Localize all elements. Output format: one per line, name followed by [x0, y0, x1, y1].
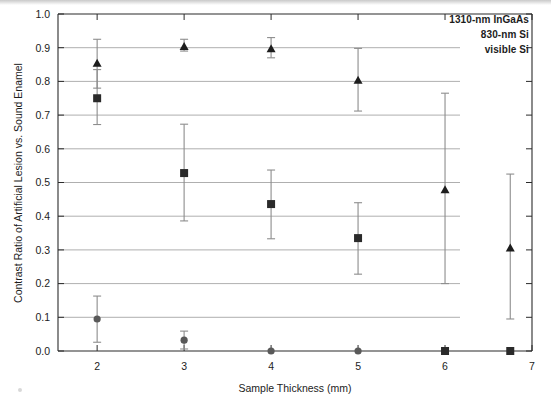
y-tick-label: 0.9 — [35, 42, 50, 54]
data-point-marker-circle — [267, 347, 274, 354]
y-tick-label: 0.0 — [35, 345, 50, 357]
data-point-marker-triangle — [267, 44, 276, 52]
y-tick-label: 0.6 — [35, 143, 50, 155]
x-tick-label: 3 — [181, 360, 187, 372]
x-tick-label: 5 — [355, 360, 361, 372]
data-point-marker-square — [267, 200, 275, 208]
scatter-plot-svg: 0.00.10.20.30.40.50.60.70.80.91.0 234567… — [0, 0, 551, 408]
data-point-marker-square — [506, 347, 514, 355]
error-bars-group — [93, 38, 514, 349]
legend-entry-830nm-si: 830-nm Si — [409, 27, 529, 42]
y-tick-label: 0.4 — [35, 210, 50, 222]
x-tick-label: 2 — [94, 360, 100, 372]
y-tick-label: 0.8 — [35, 75, 50, 87]
data-point-marker-circle — [181, 337, 188, 344]
y-tick-label: 0.3 — [35, 244, 50, 256]
data-point-marker-square — [93, 94, 101, 102]
legend-entry-1310nm-ingaas: 1310-nm InGaAs — [409, 12, 529, 27]
scan-artifact-speck — [18, 388, 22, 392]
legend-entry-visible-si: visible Si — [409, 42, 529, 57]
y-tick-label: 1.0 — [35, 8, 50, 20]
gridlines-group — [58, 48, 460, 318]
data-points-group — [93, 42, 515, 355]
data-point-marker-circle — [354, 347, 361, 354]
y-tick-label: 0.2 — [35, 277, 50, 289]
y-tick-labels: 0.00.10.20.30.40.50.60.70.80.91.0 — [35, 8, 50, 357]
y-tick-label: 0.1 — [35, 311, 50, 323]
data-point-marker-circle — [94, 315, 101, 322]
y-axis-title: Contrast Ratio of Artificial Lesion vs. … — [12, 63, 24, 303]
x-axis-title: Sample Thickness (mm) — [239, 382, 352, 394]
data-point-marker-triangle — [506, 244, 515, 252]
y-tick-label: 0.7 — [35, 109, 50, 121]
data-point-marker-square — [354, 234, 362, 242]
data-point-marker-square — [180, 169, 188, 177]
data-point-marker-triangle — [180, 42, 189, 50]
data-point-marker-triangle — [354, 76, 363, 84]
x-tick-label: 6 — [442, 360, 448, 372]
x-tick-label: 7 — [529, 360, 535, 372]
y-tick-label: 0.5 — [35, 176, 50, 188]
x-tick-label: 4 — [268, 360, 274, 372]
data-point-marker-square — [441, 347, 449, 355]
data-point-marker-triangle — [441, 185, 450, 193]
data-point-marker-triangle — [93, 59, 102, 67]
legend: 1310-nm InGaAs 830-nm Si visible Si — [409, 12, 529, 57]
x-tick-labels: 234567 — [94, 360, 535, 372]
figure-container: 0.00.10.20.30.40.50.60.70.80.91.0 234567… — [0, 0, 551, 408]
